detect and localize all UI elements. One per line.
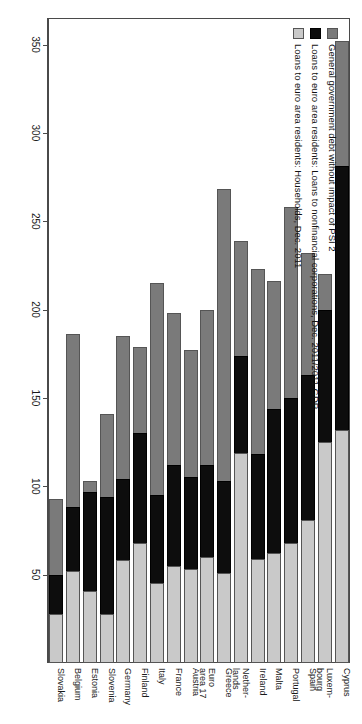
- bar-segment-gov: [49, 499, 63, 575]
- bar-segment-hh: [184, 569, 198, 663]
- bar-row: [251, 269, 265, 663]
- axis-tick-label: 100: [30, 478, 41, 495]
- legend-label-nfc: Loans to euro area residents: Loans to n…: [311, 44, 321, 409]
- bar-row: [133, 347, 147, 663]
- bar-segment-hh: [66, 571, 80, 663]
- category-label: Germany: [123, 668, 133, 720]
- legend-item-hh: Loans to euro area residents: Households…: [293, 28, 304, 409]
- legend-item-nfc: Loans to euro area residents: Loans to n…: [310, 28, 321, 409]
- category-label: Ireland: [257, 668, 267, 720]
- bar-segment-gov: [234, 241, 248, 356]
- bar-segment-hh: [251, 559, 265, 663]
- axis-tick-label: 350: [30, 36, 41, 53]
- legend-swatch-nfc-icon: [310, 28, 321, 39]
- bar-row: [184, 350, 198, 663]
- bar-segment-nfc: [268, 409, 282, 554]
- bar-segment-nfc: [234, 356, 248, 453]
- bar-segment-gov: [184, 350, 198, 477]
- bar-row: [268, 281, 282, 663]
- bar-segment-hh: [268, 553, 282, 663]
- bar-segment-nfc: [117, 479, 131, 560]
- axis-tick: [43, 310, 48, 311]
- category-label: Finland: [140, 668, 150, 720]
- category-label: Spain: [308, 668, 318, 720]
- category-label: Austria: [190, 668, 200, 720]
- bar-segment-gov: [167, 313, 181, 465]
- bar-segment-nfc: [66, 507, 80, 571]
- axis-tick-label: 150: [30, 390, 41, 407]
- bar-segment-gov: [66, 334, 80, 507]
- bar-segment-hh: [49, 614, 63, 663]
- bar-segment-gov: [268, 281, 282, 408]
- bar-segment-hh: [83, 591, 97, 663]
- bar-row: [100, 414, 114, 663]
- bar-segment-nfc: [150, 495, 164, 583]
- legend-item-gov: General government debt without impact o…: [327, 28, 338, 409]
- chart-figure: 35030025020015010050 CyprusLuxem- bourgS…: [0, 0, 362, 724]
- axis-tick: [43, 398, 48, 399]
- bar-segment-gov: [200, 310, 214, 466]
- bar-row: [234, 241, 248, 663]
- category-label: Italy: [157, 668, 167, 720]
- legend-swatch-hh-icon: [293, 28, 304, 39]
- axis-tick-label: 250: [30, 213, 41, 230]
- bar-segment-nfc: [83, 492, 97, 591]
- legend-swatch-gov-icon: [327, 28, 338, 39]
- bar-row: [66, 334, 80, 663]
- bar-segment-nfc: [167, 465, 181, 566]
- category-label: France: [173, 668, 183, 720]
- bar-segment-hh: [167, 566, 181, 663]
- axis-tick-label: 50: [30, 569, 41, 580]
- bar-segment-hh: [217, 573, 231, 663]
- axis-tick: [43, 133, 48, 134]
- bar-segment-gov: [100, 414, 114, 497]
- bar-segment-gov: [251, 269, 265, 455]
- bar-row: [117, 336, 131, 663]
- bar-segment-hh: [100, 614, 114, 663]
- category-label: Malta: [274, 668, 284, 720]
- bar-segment-nfc: [251, 454, 265, 558]
- axis-tick: [43, 221, 48, 222]
- bar-segment-hh: [234, 453, 248, 663]
- chart-legend: General government debt without impact o…: [293, 28, 338, 409]
- legend-label-hh: Loans to euro area residents: Households…: [294, 44, 304, 268]
- axis-tick: [43, 45, 48, 46]
- axis-tick-label: 300: [30, 125, 41, 142]
- bar-segment-hh: [335, 430, 349, 663]
- value-axis-line: [47, 18, 48, 663]
- rotated-figure-canvas: 35030025020015010050 CyprusLuxem- bourgS…: [0, 0, 362, 724]
- category-label: Belgium: [73, 668, 83, 720]
- bar-segment-hh: [150, 583, 164, 663]
- axis-tick-label: 200: [30, 301, 41, 318]
- bar-row: [83, 481, 97, 663]
- category-label: Estonia: [89, 668, 99, 720]
- bar-segment-hh: [117, 560, 131, 662]
- bar-segment-hh: [318, 442, 332, 663]
- category-label: Cyprus: [341, 668, 351, 720]
- bar-row: [49, 499, 63, 663]
- bar-segment-nfc: [100, 497, 114, 614]
- bar-segment-gov: [217, 189, 231, 481]
- category-label: Greece: [224, 668, 234, 720]
- bar-segment-nfc: [133, 433, 147, 543]
- legend-label-gov: General government debt without impact o…: [328, 44, 338, 252]
- bar-segment-hh: [301, 520, 315, 663]
- bar-segment-hh: [133, 543, 147, 663]
- category-label: Slovenia: [106, 668, 116, 720]
- bar-segment-nfc: [200, 465, 214, 557]
- bar-segment-nfc: [217, 481, 231, 573]
- bar-segment-nfc: [184, 477, 198, 569]
- bar-segment-hh: [200, 557, 214, 663]
- category-label: Portugal: [291, 668, 301, 720]
- bar-segment-gov: [150, 283, 164, 495]
- axis-tick: [43, 486, 48, 487]
- bar-segment-gov: [117, 336, 131, 479]
- bar-row: [167, 313, 181, 663]
- bar-segment-nfc: [49, 575, 63, 614]
- bar-segment-gov: [133, 347, 147, 434]
- bar-segment-nfc: [284, 398, 298, 543]
- bar-row: [200, 310, 214, 663]
- bar-row: [150, 283, 164, 663]
- category-label: Slovakia: [56, 668, 66, 720]
- axis-tick: [43, 575, 48, 576]
